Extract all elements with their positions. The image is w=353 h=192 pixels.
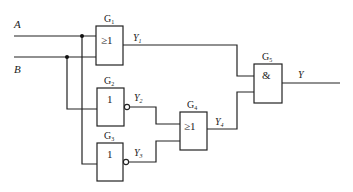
junction-B bbox=[65, 55, 69, 59]
gate-G5: & G5 bbox=[254, 51, 282, 103]
gate-G1: ≥1 G1 bbox=[96, 13, 123, 65]
signal-label-Y1: Y1 bbox=[133, 32, 142, 44]
gate-G3-symbol: 1 bbox=[107, 148, 113, 160]
wire-Y1 bbox=[123, 45, 254, 76]
output-label-Y: Y bbox=[298, 69, 305, 80]
gate-G3: 1 G3 bbox=[97, 130, 129, 181]
gate-G3-name: G3 bbox=[104, 130, 114, 142]
input-label-A: A bbox=[13, 18, 21, 30]
gate-G2-symbol: 1 bbox=[107, 93, 113, 105]
signal-label-Y2: Y2 bbox=[134, 92, 143, 104]
inverter-bubble-G2 bbox=[124, 104, 129, 109]
wire-A-to-G3 bbox=[82, 36, 97, 164]
signal-label-Y3: Y3 bbox=[134, 147, 143, 159]
junction-A bbox=[80, 34, 84, 38]
input-wires bbox=[14, 34, 97, 164]
input-label-B: B bbox=[14, 63, 21, 75]
signal-label-Y4: Y4 bbox=[215, 116, 224, 128]
gate-G4-symbol: ≥1 bbox=[184, 120, 196, 132]
wire-Y2 bbox=[130, 107, 180, 124]
gate-G1-name: G1 bbox=[104, 13, 114, 25]
internal-wires bbox=[123, 45, 340, 162]
gate-G4-name: G4 bbox=[187, 99, 197, 111]
gate-G5-name: G5 bbox=[262, 51, 272, 63]
inverter-bubble-G3 bbox=[123, 159, 128, 164]
gate-G2: 1 G2 bbox=[97, 75, 130, 126]
gate-G2-name: G2 bbox=[104, 75, 114, 87]
logic-circuit-diagram: A B ≥1 G1 1 G2 1 G3 ≥1 G4 & G5 bbox=[0, 0, 353, 192]
gate-G4: ≥1 G4 bbox=[180, 99, 207, 150]
gate-G5-symbol: & bbox=[262, 69, 271, 81]
gate-G1-symbol: ≥1 bbox=[101, 34, 113, 46]
